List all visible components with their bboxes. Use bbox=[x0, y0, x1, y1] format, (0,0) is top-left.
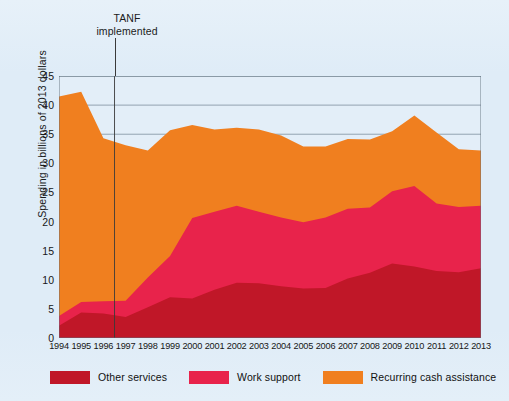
x-tick-label: 2006 bbox=[316, 341, 336, 351]
plot-area bbox=[59, 76, 481, 338]
chart-legend: Other servicesWork supportRecurring cash… bbox=[50, 366, 470, 388]
y-tick-label: 15 bbox=[30, 245, 54, 257]
tanf-marker-line-extension bbox=[115, 38, 116, 76]
legend-item[interactable]: Other services bbox=[50, 371, 167, 384]
x-tick-label: 2001 bbox=[205, 341, 225, 351]
legend-item[interactable]: Recurring cash assistance bbox=[323, 371, 497, 384]
x-tick-label: 2002 bbox=[227, 341, 247, 351]
x-tick-label: 2003 bbox=[249, 341, 269, 351]
legend-label: Work support bbox=[237, 371, 300, 383]
x-tick-label: 1997 bbox=[116, 341, 136, 351]
legend-swatch bbox=[189, 371, 229, 384]
annotation-line-1: TANF bbox=[62, 12, 192, 25]
x-tick-label: 2007 bbox=[338, 341, 358, 351]
x-tick-label: 1996 bbox=[94, 341, 114, 351]
y-tick-label: 30 bbox=[30, 157, 54, 169]
x-tick-label: 1999 bbox=[160, 341, 180, 351]
legend-label: Recurring cash assistance bbox=[371, 371, 497, 383]
chart-figure: TANF implemented Spending in billions of… bbox=[0, 0, 509, 401]
y-axis-tick-labels: 051015202530354045 bbox=[26, 76, 54, 338]
y-tick-label: 35 bbox=[30, 128, 54, 140]
y-tick-label: 45 bbox=[30, 70, 54, 82]
x-tick-label: 2000 bbox=[182, 341, 202, 351]
annotation-line-2: implemented bbox=[62, 25, 192, 38]
x-tick-label: 1995 bbox=[71, 341, 91, 351]
legend-swatch bbox=[50, 371, 90, 384]
stacked-area-chart bbox=[59, 76, 481, 338]
legend-item[interactable]: Work support bbox=[189, 371, 300, 384]
x-tick-label: 2008 bbox=[360, 341, 380, 351]
legend-label: Other services bbox=[98, 371, 167, 383]
x-tick-label: 2009 bbox=[382, 341, 402, 351]
x-tick-label: 2005 bbox=[293, 341, 313, 351]
x-tick-label: 2013 bbox=[471, 341, 491, 351]
y-tick-label: 10 bbox=[30, 274, 54, 286]
y-tick-label: 5 bbox=[30, 303, 54, 315]
x-tick-label: 2012 bbox=[449, 341, 469, 351]
x-tick-label: 1994 bbox=[49, 341, 69, 351]
x-tick-label: 2004 bbox=[271, 341, 291, 351]
legend-swatch bbox=[323, 371, 363, 384]
y-tick-label: 40 bbox=[30, 99, 54, 111]
x-axis-tick-labels: 1994199519961997199819992000200120022003… bbox=[59, 341, 481, 357]
x-tick-label: 2011 bbox=[427, 341, 446, 351]
tanf-annotation: TANF implemented bbox=[62, 12, 192, 38]
x-tick-label: 2010 bbox=[405, 341, 425, 351]
y-tick-label: 25 bbox=[30, 186, 54, 198]
x-tick-label: 1998 bbox=[138, 341, 158, 351]
y-tick-label: 20 bbox=[30, 216, 54, 228]
